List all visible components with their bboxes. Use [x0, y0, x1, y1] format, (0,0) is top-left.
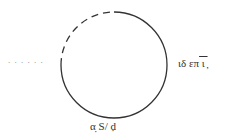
- right-label-overlined: ι ̦: [199, 57, 207, 69]
- right-label-main: ιδ επ: [178, 57, 199, 69]
- bottom-label: α̣ S/ ḍ: [90, 121, 116, 132]
- right-label: ιδ επ ι ̦: [178, 58, 208, 69]
- left-dotted-line: . . . . . .: [8, 56, 44, 65]
- loop-diagram: [0, 0, 225, 139]
- circle-dashed-arc: [61, 12, 114, 65]
